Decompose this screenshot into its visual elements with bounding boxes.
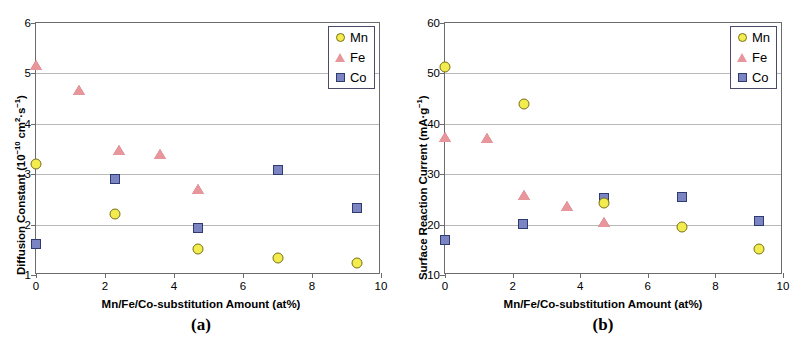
fe-marker-icon	[334, 53, 347, 62]
x-tick-mark	[580, 273, 581, 278]
y-tick-label: 50	[427, 67, 440, 79]
legend-label-co: Co	[350, 71, 367, 84]
y-tick-mark	[31, 174, 36, 175]
fe-marker-icon	[736, 53, 749, 62]
x-tick-mark	[445, 273, 446, 278]
data-point-co	[440, 235, 450, 245]
x-tick-mark	[312, 273, 313, 278]
data-point-co	[518, 219, 528, 229]
data-point-mn	[440, 61, 451, 72]
y-tick-mark	[31, 225, 36, 226]
x-tick-label: 0	[442, 280, 448, 292]
panel-b-plot-inner: 1020304050600246810MnFeCo	[445, 23, 781, 273]
gridline-horizontal	[36, 124, 379, 125]
panel-b-plot-area: 1020304050600246810MnFeCo	[444, 22, 782, 274]
legend-item-mn: Mn	[334, 31, 368, 44]
x-tick-label: 0	[33, 280, 39, 292]
legend-b: MnFeCo	[730, 26, 777, 89]
y-tick-label: 1	[25, 269, 31, 281]
data-point-fe	[561, 201, 573, 211]
x-tick-label: 4	[171, 280, 177, 292]
data-point-fe	[518, 190, 530, 200]
mn-swatch	[336, 33, 345, 42]
panel-a-plot-inner: 1234560246810MnFeCo	[36, 23, 379, 273]
gridline-horizontal	[445, 124, 781, 125]
y-tick-label: 20	[427, 219, 440, 231]
co-swatch	[336, 73, 345, 82]
x-tick-mark	[381, 273, 382, 278]
data-point-co	[31, 239, 41, 249]
data-point-co	[110, 174, 120, 184]
mn-swatch	[738, 33, 747, 42]
legend-label-fe: Fe	[350, 51, 365, 64]
panel-a-plot-area: 1234560246810MnFeCo	[35, 22, 380, 274]
x-tick-label: 8	[712, 280, 718, 292]
data-point-co	[677, 192, 687, 202]
legend-item-mn: Mn	[736, 31, 770, 44]
y-tick-label: 3	[25, 168, 31, 180]
x-tick-mark	[648, 273, 649, 278]
data-point-mn	[31, 159, 42, 170]
data-point-fe	[30, 60, 42, 70]
data-point-co	[193, 223, 203, 233]
data-point-fe	[192, 184, 204, 194]
gridline-horizontal	[36, 225, 379, 226]
y-tick-label: 6	[25, 17, 31, 29]
x-tick-label: 2	[102, 280, 108, 292]
x-tick-mark	[783, 273, 784, 278]
y-tick-mark	[440, 174, 445, 175]
data-point-fe	[154, 149, 166, 159]
data-point-mn	[193, 243, 204, 254]
data-point-fe	[113, 145, 125, 155]
data-point-mn	[519, 98, 530, 109]
data-point-mn	[351, 257, 362, 268]
data-point-fe	[439, 132, 451, 142]
co-marker-icon	[334, 73, 347, 82]
data-point-co	[754, 216, 764, 226]
mn-marker-icon	[736, 33, 749, 42]
co-marker-icon	[736, 73, 749, 82]
y-tick-mark	[31, 124, 36, 125]
y-tick-mark	[440, 73, 445, 74]
legend-item-fe: Fe	[736, 51, 770, 64]
legend-item-fe: Fe	[334, 51, 368, 64]
panel-b-caption: (b)	[402, 315, 804, 335]
data-point-mn	[272, 253, 283, 264]
legend-label-mn: Mn	[350, 31, 368, 44]
legend-item-co: Co	[334, 71, 368, 84]
x-tick-label: 6	[240, 280, 246, 292]
data-point-mn	[676, 221, 687, 232]
y-tick-mark	[31, 73, 36, 74]
gridline-horizontal	[445, 225, 781, 226]
gridline-horizontal	[445, 174, 781, 175]
y-tick-label: 10	[427, 269, 440, 281]
x-tick-label: 10	[375, 280, 388, 292]
legend-label-co: Co	[752, 71, 769, 84]
y-tick-label: 40	[427, 118, 440, 130]
x-tick-mark	[513, 273, 514, 278]
panel-b: Surface Reaction Current (mA·g−1) 102030…	[402, 0, 804, 342]
x-tick-label: 10	[777, 280, 790, 292]
x-tick-label: 8	[309, 280, 315, 292]
panel-a-x-axis-title: Mn/Fe/Co-substitution Amount (at%)	[0, 298, 402, 310]
y-tick-label: 2	[25, 219, 31, 231]
y-tick-mark	[440, 124, 445, 125]
data-point-co	[352, 203, 362, 213]
y-tick-mark	[440, 225, 445, 226]
x-tick-mark	[174, 273, 175, 278]
panel-a-caption: (a)	[0, 315, 402, 335]
x-tick-mark	[36, 273, 37, 278]
x-tick-mark	[243, 273, 244, 278]
fe-swatch	[335, 53, 345, 62]
figure-two-panel-scatter: Diffusion Constant (10−10 cm2·s−1) 12345…	[0, 0, 804, 342]
mn-marker-icon	[334, 33, 347, 42]
data-point-fe	[598, 217, 610, 227]
y-tick-mark	[440, 23, 445, 24]
panel-a: Diffusion Constant (10−10 cm2·s−1) 12345…	[0, 0, 402, 342]
fe-swatch	[737, 53, 747, 62]
y-tick-label: 4	[25, 118, 31, 130]
data-point-mn	[598, 198, 609, 209]
gridline-horizontal	[36, 174, 379, 175]
x-tick-label: 2	[509, 280, 515, 292]
y-tick-label: 30	[427, 168, 440, 180]
